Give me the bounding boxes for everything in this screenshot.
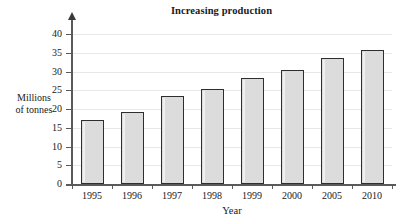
y-axis-tick-label: 5 (36, 160, 62, 170)
bar-1999 (241, 78, 264, 184)
bar-highlight (283, 72, 285, 182)
bar-2005 (321, 58, 344, 184)
bar-1997 (161, 96, 184, 184)
chart-title: Increasing production (0, 5, 401, 16)
y-axis-tick-label: 35 (36, 48, 62, 58)
gridline (72, 109, 392, 110)
bar-highlight (123, 114, 125, 182)
bar-1996 (121, 112, 144, 184)
x-axis-tick-label-2010: 2010 (352, 190, 392, 201)
bar-chart: Increasing production Millions of tonnes… (0, 0, 401, 223)
y-axis-tick-label: 10 (36, 142, 62, 152)
x-axis-tick-label-1995: 1995 (72, 190, 112, 201)
bar-highlight (83, 122, 85, 182)
x-axis-tick (232, 184, 233, 189)
x-axis-tick-label-1996: 1996 (112, 190, 152, 201)
y-axis-tick (66, 53, 72, 54)
y-axis-tick (66, 34, 72, 35)
y-axis-tick (66, 165, 72, 166)
x-axis-tick-label-1999: 1999 (232, 190, 272, 201)
bar-highlight (363, 52, 365, 182)
x-axis-tick (392, 184, 393, 189)
bar-highlight (163, 98, 165, 182)
x-axis-tick-label-2005: 2005 (312, 190, 352, 201)
y-axis-tick-label: 30 (36, 67, 62, 77)
x-axis-tick (152, 184, 153, 189)
bar-2010 (361, 50, 384, 184)
y-axis-tick (66, 72, 72, 73)
bar-highlight (243, 80, 245, 182)
x-axis-tick (192, 184, 193, 189)
y-axis-line (71, 18, 73, 185)
x-axis-tick-label-2000: 2000 (272, 190, 312, 201)
y-axis-arrow-icon (68, 12, 76, 20)
y-axis-tick-label: 0 (36, 179, 62, 189)
bar-1998 (201, 89, 224, 184)
x-axis-tick-label-1997: 1997 (152, 190, 192, 201)
x-axis-tick (352, 184, 353, 189)
chart-title-text: Increasing production (171, 5, 272, 16)
y-axis-tick (66, 128, 72, 129)
y-axis-tick-label: 15 (36, 123, 62, 133)
bar-2000 (281, 70, 304, 184)
y-axis-tick (66, 109, 72, 110)
y-axis-tick-label: 25 (36, 85, 62, 95)
x-axis-tick (112, 184, 113, 189)
y-axis-tick-label: 20 (36, 104, 62, 114)
x-axis-label: Year (72, 205, 392, 216)
gridline (72, 72, 392, 73)
x-axis-tick-label-1998: 1998 (192, 190, 232, 201)
x-axis-tick (312, 184, 313, 189)
y-axis-tick (66, 147, 72, 148)
x-axis-tick (72, 184, 73, 189)
gridline (72, 90, 392, 91)
gridline (72, 53, 392, 54)
bar-1995 (81, 120, 104, 184)
y-axis-tick-label: 40 (36, 29, 62, 39)
bar-highlight (203, 91, 205, 182)
x-axis-tick (272, 184, 273, 189)
y-axis-tick (66, 90, 72, 91)
x-axis-line (66, 184, 396, 186)
gridline (72, 34, 392, 35)
bar-highlight (323, 60, 325, 182)
